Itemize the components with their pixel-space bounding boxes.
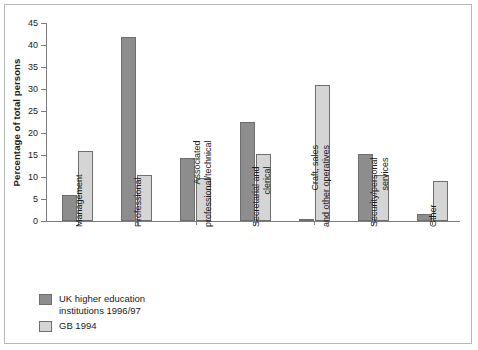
x-category-label-text: Craft, salesand other operatives	[310, 145, 331, 227]
x-category-label-text: Professional	[133, 177, 144, 227]
x-category-label-text: Management	[74, 174, 85, 227]
y-tick-mark	[41, 155, 47, 156]
chart-figure: Percentage of total persons 051015202530…	[4, 4, 472, 344]
x-category-label-text: Secretarial andclerical	[251, 166, 272, 227]
y-tick-mark	[41, 177, 47, 178]
x-category-label-line: Other	[428, 204, 438, 227]
legend-item: UK higher education institutions 1996/97	[39, 293, 269, 316]
x-category-label-line: Security/personal	[369, 157, 379, 227]
legend-label: GB 1994	[59, 320, 97, 332]
legend-item: GB 1994	[39, 320, 269, 332]
y-tick-mark	[41, 67, 47, 68]
y-tick-mark	[41, 199, 47, 200]
y-tick-mark	[41, 111, 47, 112]
y-tick-mark	[41, 23, 47, 24]
x-category-label-line: Management	[74, 174, 84, 227]
x-category-label-text: Associatedprofessional/technical	[192, 140, 213, 227]
y-axis-title: Percentage of total persons	[10, 23, 24, 221]
y-tick-mark	[41, 89, 47, 90]
y-tick-label: 20	[28, 129, 38, 138]
x-category-label-line: and other operatives	[321, 145, 332, 227]
x-category-label-line: Associated	[192, 140, 202, 184]
y-tick-label: 0	[33, 217, 38, 226]
y-axis-title-text: Percentage of total persons	[12, 58, 23, 186]
y-tick-label: 5	[33, 195, 38, 204]
x-category-label-line: professional/technical	[202, 140, 213, 227]
y-tick-label: 25	[28, 107, 38, 116]
x-category-label-line: Professional	[133, 177, 143, 227]
y-tick-mark	[41, 221, 47, 222]
legend-swatch	[39, 294, 52, 305]
y-tick-label: 40	[28, 41, 38, 50]
legend-label: UK higher education institutions 1996/97	[59, 293, 145, 316]
y-tick-mark	[41, 133, 47, 134]
chart-legend: UK higher education institutions 1996/97…	[39, 293, 269, 336]
y-tick-label: 35	[28, 63, 38, 72]
y-axis-line	[46, 23, 47, 221]
y-tick-label: 15	[28, 151, 38, 160]
x-category-label-line: services	[380, 157, 391, 227]
y-tick-label: 10	[28, 173, 38, 182]
legend-swatch	[39, 321, 52, 332]
x-category-label-text: Security/personalservices	[369, 157, 390, 227]
x-category-label-line: clerical	[262, 166, 273, 227]
y-tick-label: 45	[28, 19, 38, 28]
bar-group	[417, 23, 448, 221]
x-category-label-text: Other	[428, 204, 439, 227]
x-category-label-line: Secretarial and	[251, 166, 261, 227]
y-tick-mark	[41, 45, 47, 46]
x-category-label-line: Craft, sales	[310, 145, 320, 191]
y-tick-label: 30	[28, 85, 38, 94]
